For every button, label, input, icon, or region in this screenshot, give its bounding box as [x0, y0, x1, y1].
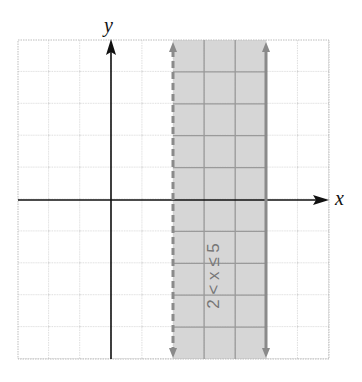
graph	[0, 0, 362, 382]
inequality-label: 2 < x ≤ 5	[204, 236, 224, 316]
x-axis-label: x	[335, 187, 344, 210]
y-axis-label: y	[104, 14, 113, 37]
